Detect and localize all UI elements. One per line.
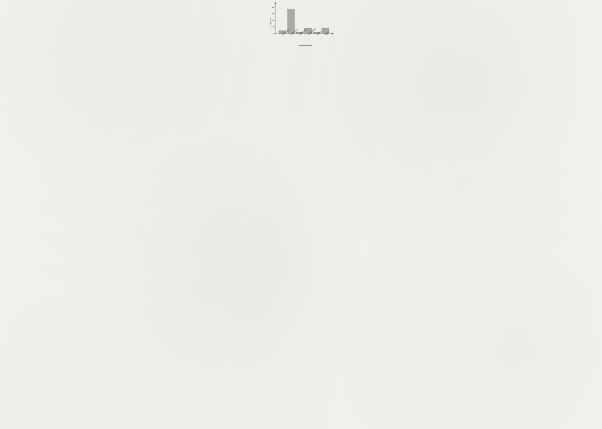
y-tick-label-10: 10 [272, 19, 275, 21]
y-tick-label-15: 15 [272, 12, 275, 14]
y-tick-group: 0 5 10 15 20 [272, 6, 276, 35]
y-tick-label-5: 5 [273, 25, 275, 27]
y-axis-title: Frequency [269, 16, 271, 27]
chart-page: 0 5 10 15 20 Dem-Rep Democrat Federalist… [0, 0, 602, 429]
y-tick-label-20: 20 [272, 6, 275, 8]
y-tick-label-0: 0 [273, 32, 275, 34]
x-axis-title: Political Party [299, 44, 313, 46]
bar-chart: 0 5 10 15 20 Dem-Rep Democrat Federalist… [0, 0, 602, 48]
